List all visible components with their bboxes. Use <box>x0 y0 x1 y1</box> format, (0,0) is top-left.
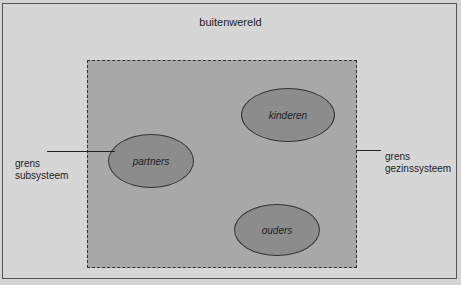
node-ouders: ouders <box>234 204 320 256</box>
node-partners: partners <box>108 134 194 188</box>
subsystem-boundary-line <box>47 151 115 152</box>
subsystem-boundary-label: grens subsysteem <box>15 158 68 182</box>
node-label: ouders <box>262 225 293 236</box>
node-kinderen: kinderen <box>241 88 335 142</box>
node-label: kinderen <box>269 110 307 121</box>
outer-world-label: buitenwereld <box>0 16 461 28</box>
family-boundary-label: grens gezinssysteem <box>385 151 451 175</box>
family-boundary-line <box>357 150 381 151</box>
node-label: partners <box>133 156 170 167</box>
